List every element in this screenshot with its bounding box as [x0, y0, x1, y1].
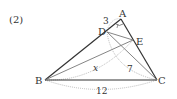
segment-be: [45, 40, 133, 80]
label-b: B: [35, 75, 42, 86]
angle-mark-a: [116, 24, 123, 26]
triangle-diagram: (2) A D E B C 3 x 7 12: [0, 0, 177, 99]
problem-number: (2): [9, 14, 23, 25]
label-e: E: [136, 36, 143, 47]
label-c: C: [158, 75, 166, 86]
measure-ad: 3: [103, 16, 109, 26]
measure-be: x: [93, 63, 98, 73]
label-a: A: [118, 8, 127, 19]
measure-dc: 7: [127, 64, 133, 74]
measure-bc: 12: [96, 86, 107, 96]
label-d: D: [98, 26, 106, 37]
side-ab: [45, 19, 121, 80]
